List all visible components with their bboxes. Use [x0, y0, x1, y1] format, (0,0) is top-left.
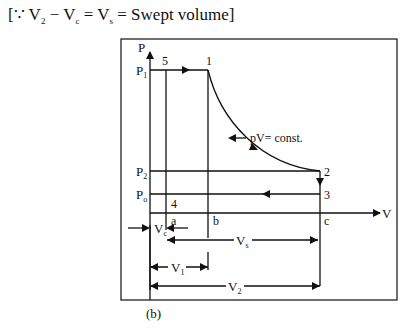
- point-1: 1: [206, 54, 212, 68]
- svg-text:5: 5: [162, 54, 168, 68]
- svg-text:c: c: [324, 214, 329, 228]
- point-5: 5: [162, 54, 168, 68]
- point-4: 4: [171, 197, 177, 211]
- arrow-right-icon: [142, 224, 150, 232]
- svg-text:4: 4: [171, 197, 177, 211]
- po-sub: o: [143, 195, 147, 204]
- point-a: a: [171, 214, 177, 228]
- svg-text:P: P: [138, 40, 145, 55]
- arrow-left-icon: [262, 190, 270, 198]
- point-2: 2: [324, 165, 330, 179]
- svg-text:pV= const.: pV= const.: [250, 131, 303, 145]
- p2-label: P: [136, 164, 143, 179]
- svg-text:V: V: [382, 206, 392, 221]
- diagram-frame: [121, 39, 397, 300]
- svg-text:a: a: [171, 214, 177, 228]
- arrow-right-icon: [182, 66, 190, 74]
- svg-text:(b): (b): [146, 306, 161, 321]
- svg-text:1: 1: [206, 54, 212, 68]
- svg-text:P2: P2: [136, 164, 147, 181]
- svg-text:b: b: [213, 214, 219, 228]
- vs-sub: s: [245, 241, 248, 250]
- point-c: c: [324, 214, 329, 228]
- point-3: 3: [324, 188, 330, 202]
- pv-const-annotation: pV= const.: [250, 131, 303, 145]
- p1-sub: 1: [143, 71, 147, 80]
- p-axis-label: P: [138, 40, 145, 55]
- v-axis-label: V: [382, 206, 392, 221]
- po-label: P: [136, 187, 143, 202]
- pv-diagram: P V P1 P2 Po 5 1 2 3 4 a b c pV= const. …: [0, 0, 412, 329]
- vc-sub: c: [163, 229, 167, 238]
- arrow-down-icon: [316, 178, 324, 186]
- svg-text:3: 3: [324, 188, 330, 202]
- svg-text:2: 2: [324, 165, 330, 179]
- v1-sub: 1: [180, 268, 184, 277]
- point-b: b: [213, 214, 219, 228]
- p2-sub: 2: [143, 172, 147, 181]
- v2-sub: 2: [237, 287, 241, 296]
- p1-label: P: [136, 63, 143, 78]
- svg-text:P1: P1: [136, 63, 147, 80]
- expansion-curve: [208, 70, 320, 171]
- figure-caption: (b): [146, 306, 161, 321]
- svg-text:Po: Po: [136, 187, 147, 204]
